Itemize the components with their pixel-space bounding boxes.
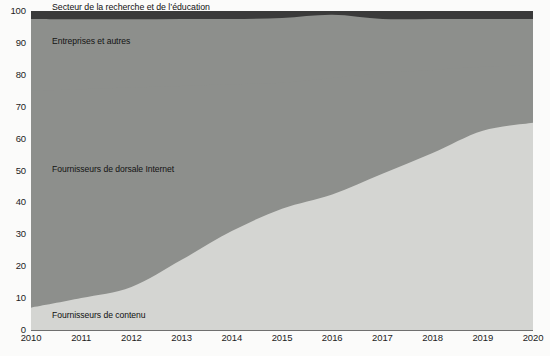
x-tick-label: 2016 <box>312 332 352 343</box>
y-tick-label: 80 <box>2 70 26 80</box>
y-tick-label: 30 <box>2 229 26 239</box>
x-axis-baseline <box>31 330 533 331</box>
series-label-backbone: Fournisseurs de dorsale Internet <box>52 164 174 174</box>
x-tick-label: 2013 <box>162 332 202 343</box>
series-label-content: Fournisseurs de contenu <box>52 310 145 320</box>
y-tick-label: 70 <box>2 102 26 112</box>
x-tick-label: 2010 <box>11 332 51 343</box>
y-tick-label: 100 <box>2 6 26 16</box>
x-tick-label: 2020 <box>513 332 550 343</box>
y-tick-label: 20 <box>2 261 26 271</box>
x-tick-label: 2011 <box>61 332 101 343</box>
y-tick-label: 10 <box>2 293 26 303</box>
series-label-enterprises: Entreprises et autres <box>52 36 130 46</box>
chart-figure: 0102030405060708090100 20102011201220132… <box>0 0 550 356</box>
y-axis: 0102030405060708090100 <box>0 0 31 356</box>
x-axis: 2010201120122013201420152016201720182019… <box>31 332 533 348</box>
x-tick-label: 2014 <box>212 332 252 343</box>
x-tick-label: 2015 <box>262 332 302 343</box>
x-tick-label: 2018 <box>413 332 453 343</box>
y-tick-label: 50 <box>2 166 26 176</box>
y-tick-label: 60 <box>2 134 26 144</box>
y-tick-label: 40 <box>2 197 26 207</box>
series-label-research: Secteur de la recherche et de l’éducatio… <box>52 2 210 12</box>
x-tick-label: 2019 <box>463 332 503 343</box>
x-tick-label: 2017 <box>362 332 402 343</box>
x-tick-label: 2012 <box>111 332 151 343</box>
y-tick-label: 90 <box>2 38 26 48</box>
